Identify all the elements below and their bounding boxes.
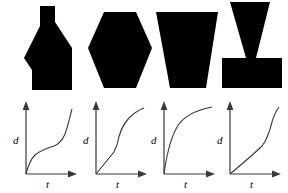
chart-2-y-axis-label: d <box>83 134 89 146</box>
depth-time-chart-row: d t d t <box>0 96 288 193</box>
chart-3-curve <box>164 107 212 174</box>
chart-3-y-axis-label: d <box>151 134 157 146</box>
vessel-2-svg <box>82 0 154 96</box>
chart-2-y-axis-arrow <box>93 101 100 110</box>
chart-4-svg: d t <box>212 96 284 193</box>
chart-1-svg: d t <box>8 96 80 193</box>
chart-2-axes <box>93 101 147 177</box>
figure-container: d t d t <box>0 0 288 193</box>
vessel-4-funnel-on-base <box>216 0 288 96</box>
chart-3-y-axis-arrow <box>161 101 168 110</box>
chart-4-x-axis-label: t <box>250 178 254 190</box>
chart-4-x-axis-arrow <box>272 171 281 178</box>
chart-1-axes <box>23 101 77 177</box>
chart-2-x-axis-label: t <box>116 178 120 190</box>
vessel-1-flask-narrow-neck <box>10 0 82 96</box>
chart-1-x-axis-label: t <box>46 178 50 190</box>
vessel-4-svg <box>216 0 288 96</box>
chart-4-curve <box>230 107 279 174</box>
vessel-3-svg <box>150 0 222 96</box>
chart-4-cell: d t <box>212 96 284 193</box>
chart-4-axes <box>227 101 281 177</box>
vessel-2-hexagon-barrel <box>82 0 154 96</box>
chart-3-svg: d t <box>146 96 218 193</box>
chart-3-x-axis-label: t <box>184 178 188 190</box>
chart-2-cell: d t <box>78 96 150 193</box>
chart-2-svg: d t <box>78 96 150 193</box>
chart-1-cell: d t <box>8 96 80 193</box>
vessel-1-svg <box>10 0 82 96</box>
chart-1-y-axis-arrow <box>23 101 30 110</box>
chart-1-x-axis-arrow <box>68 171 77 178</box>
chart-2-curve <box>96 108 144 174</box>
vessel-3-shape <box>156 12 218 88</box>
vessel-4-shape <box>222 2 282 88</box>
vessel-silhouette-row <box>0 0 288 96</box>
vessel-1-shape <box>24 6 72 90</box>
chart-3-axes <box>161 101 215 177</box>
chart-1-y-axis-label: d <box>13 134 19 146</box>
chart-4-y-axis-arrow <box>227 101 234 110</box>
chart-1-curve <box>26 109 72 174</box>
vessel-2-shape <box>88 12 152 88</box>
chart-3-cell: d t <box>146 96 218 193</box>
chart-4-y-axis-label: d <box>217 134 223 146</box>
vessel-3-inverted-trapezoid-funnel <box>150 0 222 96</box>
